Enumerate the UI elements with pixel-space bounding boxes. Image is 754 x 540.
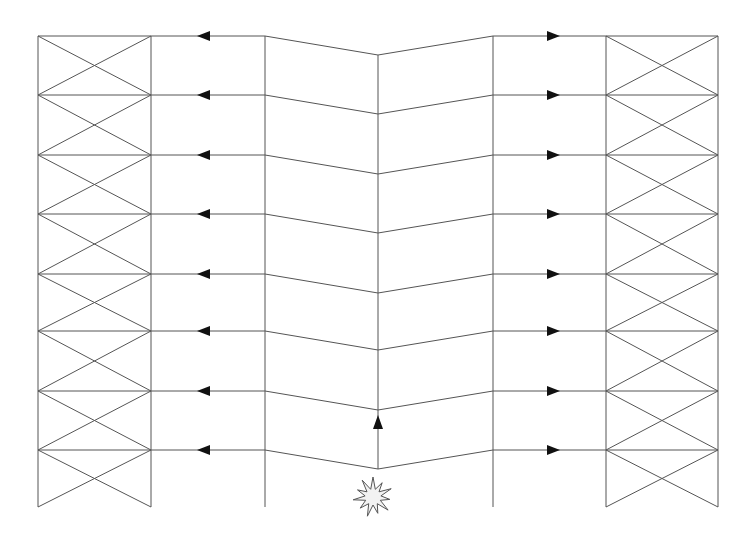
arrow-left-icon (197, 269, 210, 279)
arrow-right-icon (547, 150, 560, 160)
columns (38, 36, 718, 507)
arrow-right-icon (547, 386, 560, 396)
frame-drawing (0, 0, 754, 540)
arrow-right-icon (547, 209, 560, 219)
structural-frame-diagram (0, 0, 754, 540)
arrow-left-icon (197, 209, 210, 219)
arrow-right-icon (547, 31, 560, 41)
arrow-right-icon (547, 445, 560, 455)
arrow-left-icon (197, 445, 210, 455)
explosion-icon (353, 477, 391, 516)
arrow-right-icon (547, 90, 560, 100)
arrow-left-icon (197, 90, 210, 100)
arrow-left-icon (197, 386, 210, 396)
explosion-icon (353, 477, 391, 516)
arrow-left-icon (197, 31, 210, 41)
arrow-up-icon (373, 415, 383, 429)
arrow-left-icon (197, 326, 210, 336)
arrow-right-icon (547, 269, 560, 279)
arrow-left-icon (197, 150, 210, 160)
arrow-right-icon (547, 326, 560, 336)
floor-beam (38, 36, 718, 55)
